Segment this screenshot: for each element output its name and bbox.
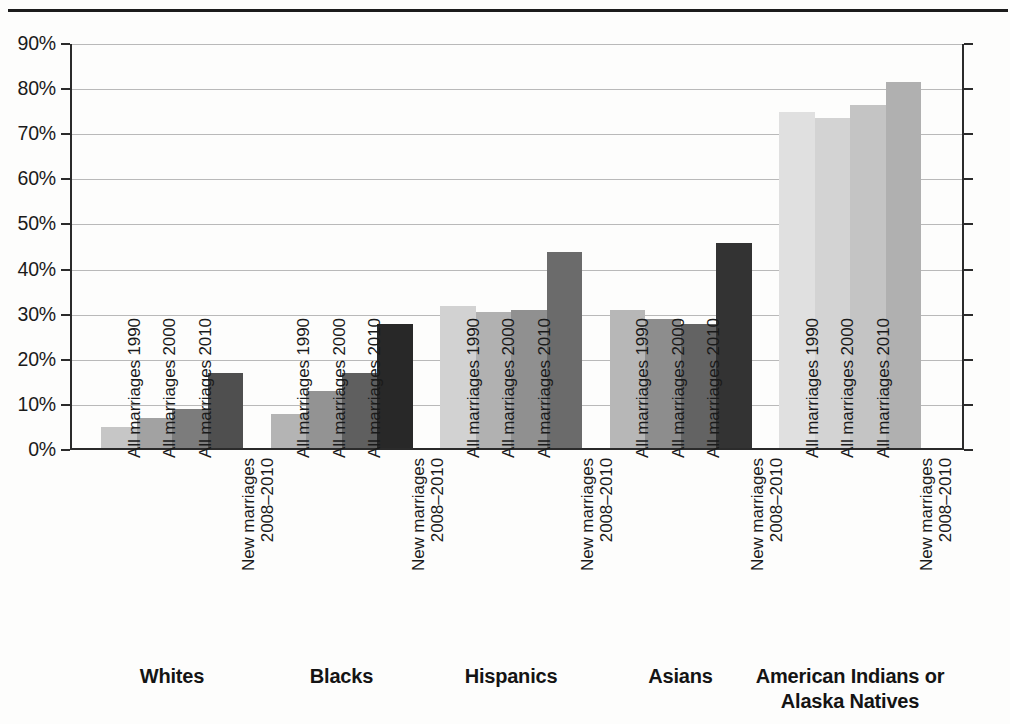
bar-category-label-line: 2008–2010 — [429, 458, 447, 628]
bar-category-label: New marriages2008–2010 — [410, 458, 430, 628]
y-axis-tick-right — [964, 269, 973, 271]
y-axis-tick-label: 70% — [0, 124, 56, 144]
y-axis-tick-left — [61, 314, 70, 316]
bar-category-label: All marriages 2000 — [500, 318, 520, 458]
bar-category-label-line: 2008–2010 — [768, 458, 786, 628]
top-rule-divider — [8, 9, 1008, 12]
y-axis-tick-label: 30% — [0, 305, 56, 325]
y-axis-tick-left — [61, 359, 70, 361]
bar-category-label: New marriages2008–2010 — [240, 458, 260, 628]
bar-category-label: All marriages 2010 — [366, 318, 386, 458]
bar-category-label: All marriages 2000 — [839, 318, 859, 458]
bar-category-label: All marriages 2000 — [161, 318, 181, 458]
bar-category-label: All marriages 2010 — [197, 318, 217, 458]
y-axis-tick-left — [61, 43, 70, 45]
bar-category-label: All marriages 2000 — [670, 318, 690, 458]
bar-category-label: All marriages 2010 — [705, 318, 725, 458]
bar-category-label: All marriages 2010 — [536, 318, 556, 458]
bar-category-label-line: New marriages — [239, 458, 258, 571]
bar-category-label: New marriages2008–2010 — [749, 458, 769, 628]
bar-category-label: All marriages 2010 — [875, 318, 895, 458]
bar-category-label-line: New marriages — [748, 458, 767, 571]
y-axis-tick-left — [61, 269, 70, 271]
y-axis-tick-right — [964, 314, 973, 316]
y-axis-tick-left — [61, 178, 70, 180]
bar-category-label: All marriages 1990 — [126, 318, 146, 458]
y-axis-tick-right — [964, 404, 973, 406]
y-axis-tick-left — [61, 88, 70, 90]
bar-category-label: All marriages 2000 — [331, 318, 351, 458]
bar-category-label: All marriages 1990 — [634, 318, 654, 458]
y-axis-tick-right — [964, 223, 973, 225]
gridline — [70, 44, 964, 45]
y-axis-tick-label: 50% — [0, 214, 56, 234]
y-axis-tick-label: 80% — [0, 79, 56, 99]
bar-category-label: All marriages 1990 — [295, 318, 315, 458]
y-axis-tick-label: 60% — [0, 169, 56, 189]
group-name-american-indians-or-alaska-natives: American Indians orAlaska Natives — [749, 664, 951, 714]
y-axis-tick-right — [964, 88, 973, 90]
bar-category-label-line: 2008–2010 — [937, 458, 955, 628]
bar-category-label-line: 2008–2010 — [259, 458, 277, 628]
y-axis-tick-left — [61, 404, 70, 406]
bar-category-label: All marriages 1990 — [804, 318, 824, 458]
chart-figure: 90%80%70%60%50%40%30%20%10%0% All marria… — [0, 0, 1010, 724]
y-axis-tick-left — [61, 449, 70, 451]
y-axis-tick-right — [964, 178, 973, 180]
bar-category-label-line: New marriages — [409, 458, 428, 571]
group-name-line: American Indians or — [749, 664, 951, 689]
y-axis-line-right — [962, 44, 964, 450]
y-axis-tick-label: 20% — [0, 350, 56, 370]
y-axis-tick-right — [964, 133, 973, 135]
bar-category-label: New marriages2008–2010 — [579, 458, 599, 628]
y-axis-tick-label: 90% — [0, 34, 56, 54]
y-axis-tick-label: 0% — [0, 440, 56, 460]
y-axis-tick-label: 40% — [0, 260, 56, 280]
y-axis-line-left — [70, 44, 72, 450]
y-axis-tick-label: 10% — [0, 395, 56, 415]
y-axis-tick-right — [964, 449, 973, 451]
y-axis-tick-right — [964, 359, 973, 361]
bar-category-label: New marriages2008–2010 — [918, 458, 938, 628]
y-axis-tick-left — [61, 133, 70, 135]
bar-category-label-line: 2008–2010 — [598, 458, 616, 628]
bar-category-label-line: New marriages — [917, 458, 936, 571]
gridline — [70, 89, 964, 90]
group-name-line: Alaska Natives — [749, 689, 951, 714]
bar-category-label: All marriages 1990 — [465, 318, 485, 458]
y-axis-tick-right — [964, 43, 973, 45]
y-axis-tick-left — [61, 223, 70, 225]
bar-category-label-line: New marriages — [578, 458, 597, 571]
